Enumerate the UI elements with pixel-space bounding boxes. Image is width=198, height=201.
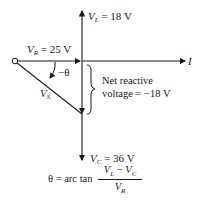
vs-junction-arrowhead	[79, 108, 85, 114]
angle-label: −θ	[58, 67, 69, 78]
formula-fraction: VL − VC VR	[98, 164, 142, 195]
formula-lhs: θ = arc tan	[48, 173, 92, 184]
net-reactive-brace	[87, 65, 95, 114]
vr-label: VR = 25 V	[27, 44, 71, 57]
vs-label: VS	[40, 88, 50, 101]
origin-circle	[12, 58, 18, 64]
vl-label: VL = 18 V	[88, 11, 132, 24]
net-reactive-note: Net reactive voltage = −18 V	[102, 74, 171, 100]
formula-denominator: VR	[98, 180, 142, 195]
current-label: I	[188, 56, 192, 67]
angle-arc	[50, 62, 55, 78]
formula-numerator: VL − VC	[98, 164, 142, 180]
